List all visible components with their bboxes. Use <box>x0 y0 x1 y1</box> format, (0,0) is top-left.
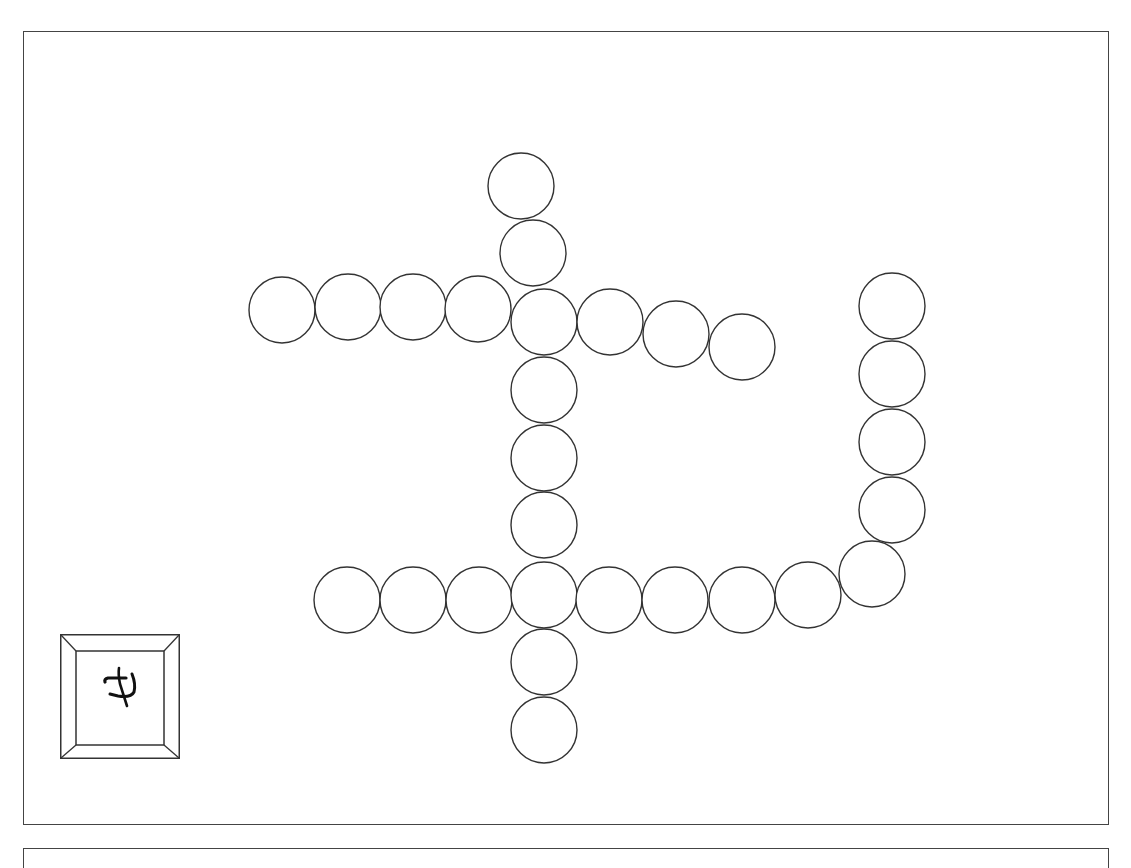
circle-slot-top-1[interactable] <box>488 153 554 219</box>
circle-slot-bottom-1[interactable] <box>511 629 577 695</box>
circle-slot-top-2[interactable] <box>500 220 566 286</box>
symbol-tile[interactable] <box>60 634 180 759</box>
circle-slot-bottom-2[interactable] <box>511 697 577 763</box>
circle-slot-right-3[interactable] <box>859 409 925 475</box>
circle-slot-col-3[interactable] <box>511 492 577 558</box>
circle-slot-right-2[interactable] <box>859 341 925 407</box>
circle-slot-row2-7[interactable] <box>709 567 775 633</box>
circle-slot-row1-8[interactable] <box>709 314 775 380</box>
circle-slot-row1-2[interactable] <box>315 274 381 340</box>
circle-slot-hub-lower[interactable] <box>511 562 577 628</box>
circle-slot-hub-upper[interactable] <box>511 289 577 355</box>
lower-panel <box>23 848 1109 868</box>
circle-slot-row1-6[interactable] <box>577 289 643 355</box>
circle-slot-row2-9[interactable] <box>839 541 905 607</box>
circle-slot-row1-7[interactable] <box>643 301 709 367</box>
circle-slot-row2-3[interactable] <box>446 567 512 633</box>
circle-slot-col-1[interactable] <box>511 357 577 423</box>
circle-slot-row2-8[interactable] <box>775 562 841 628</box>
tile-glyph-text <box>76 651 164 745</box>
circle-slot-right-4[interactable] <box>859 477 925 543</box>
circle-slot-row2-2[interactable] <box>380 567 446 633</box>
circle-slot-row2-1[interactable] <box>314 567 380 633</box>
circle-slot-right-1[interactable] <box>859 273 925 339</box>
circle-slot-col-2[interactable] <box>511 425 577 491</box>
circle-slot-row2-5[interactable] <box>576 567 642 633</box>
circle-slot-row1-3[interactable] <box>380 274 446 340</box>
circle-slot-row2-6[interactable] <box>642 567 708 633</box>
circle-slot-row1-4[interactable] <box>445 276 511 342</box>
circle-slot-row1-1[interactable] <box>249 277 315 343</box>
